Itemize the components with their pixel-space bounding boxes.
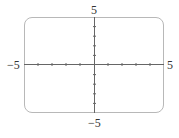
x-min-label: −5 bbox=[7, 59, 20, 71]
y-min-label: −5 bbox=[88, 117, 101, 129]
y-max-label: 5 bbox=[91, 4, 97, 16]
x-max-label: 5 bbox=[167, 59, 173, 71]
